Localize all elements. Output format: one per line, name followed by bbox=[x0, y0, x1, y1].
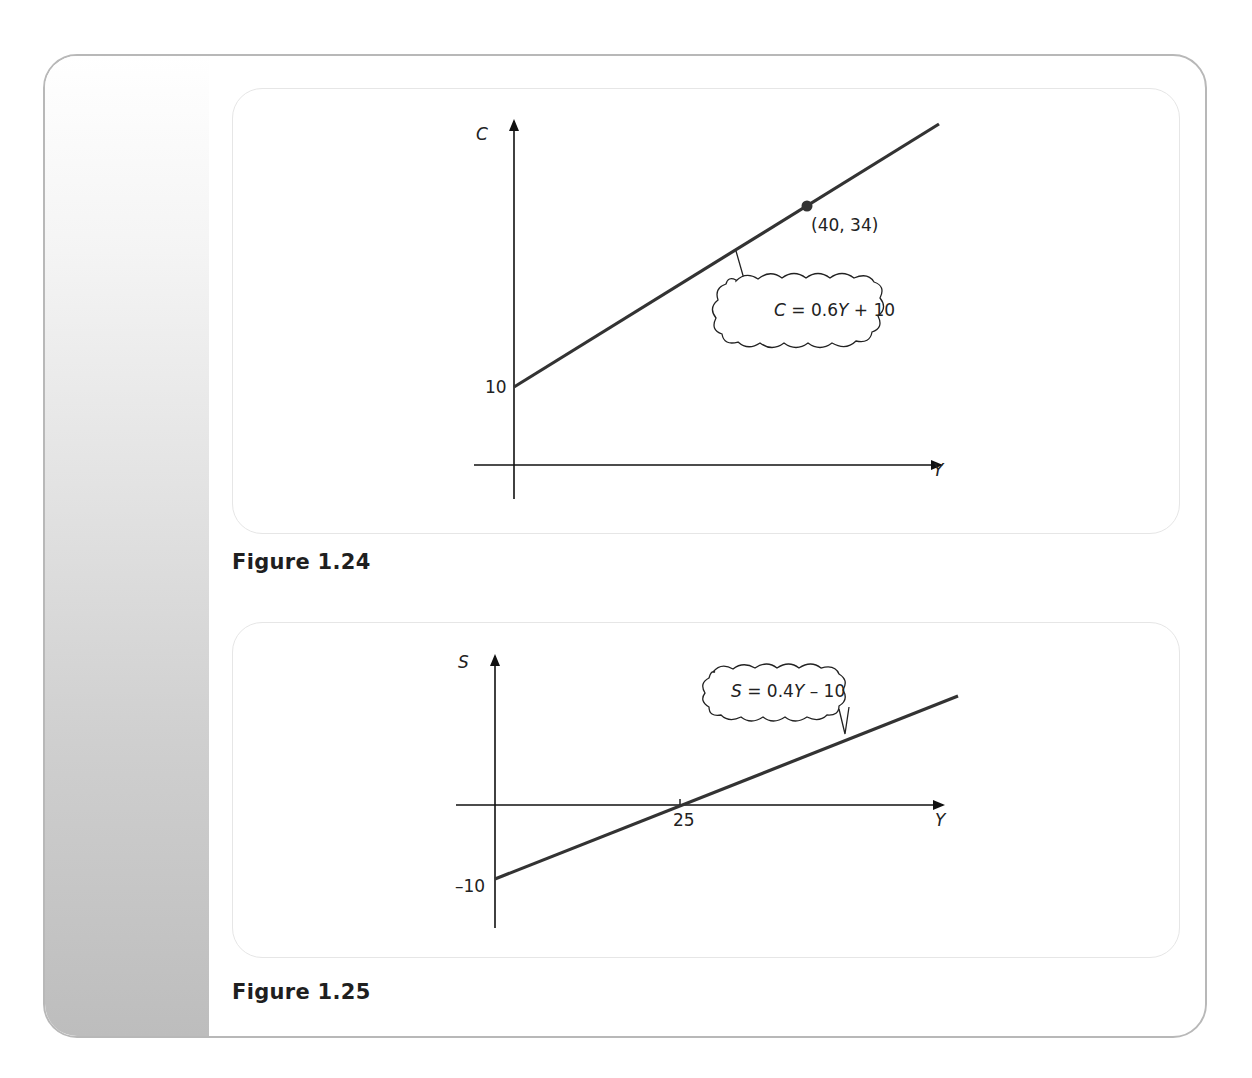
figure-1-24-panel: C Y 10 (40, 34) C = 0.6Y + 10 bbox=[232, 88, 1180, 534]
y-axis-label: S bbox=[458, 652, 469, 672]
y-intercept-label: –10 bbox=[455, 876, 485, 896]
x-axis-label: Y bbox=[933, 460, 943, 480]
point-label: (40, 34) bbox=[811, 215, 878, 235]
figure-1-25-chart bbox=[233, 623, 1181, 959]
callout-pointer bbox=[736, 251, 753, 279]
figure-1-25-caption: Figure 1.25 bbox=[232, 980, 371, 1004]
callout-equation: C = 0.6Y + 10 bbox=[774, 300, 895, 320]
x-intercept-label: 25 bbox=[673, 810, 695, 830]
figure-1-24-caption: Figure 1.24 bbox=[232, 550, 371, 574]
figure-1-24-chart bbox=[233, 89, 1181, 535]
x-axis-label: Y bbox=[935, 810, 945, 830]
consumption-line bbox=[514, 124, 939, 387]
point-marker bbox=[802, 201, 813, 212]
callout-pointer bbox=[839, 707, 849, 734]
figure-1-25-panel: S Y 25 –10 S = 0.4Y – 10 bbox=[232, 622, 1180, 958]
decorative-side-band bbox=[45, 56, 209, 1036]
y-intercept-label: 10 bbox=[485, 377, 507, 397]
y-axis-label: C bbox=[476, 124, 488, 144]
callout-equation: S = 0.4Y – 10 bbox=[731, 681, 845, 701]
saving-line bbox=[495, 696, 958, 879]
